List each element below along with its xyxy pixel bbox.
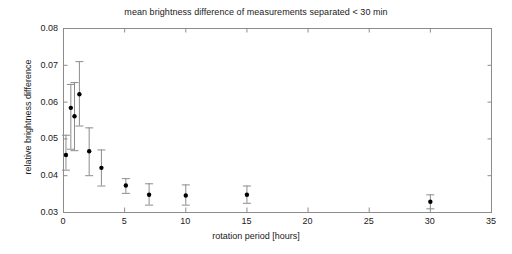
data-point [428, 199, 432, 203]
data-point [72, 114, 76, 118]
data-point [99, 166, 103, 170]
data-point [69, 106, 73, 110]
data-point [77, 92, 81, 96]
data-point [245, 193, 249, 197]
data-point [147, 193, 151, 197]
data-point [124, 183, 128, 187]
figure-container: mean brightness difference of measuremen… [0, 0, 512, 254]
data-point [64, 153, 68, 157]
data-point [87, 149, 91, 153]
plot-area [0, 0, 512, 254]
data-point [184, 193, 188, 197]
